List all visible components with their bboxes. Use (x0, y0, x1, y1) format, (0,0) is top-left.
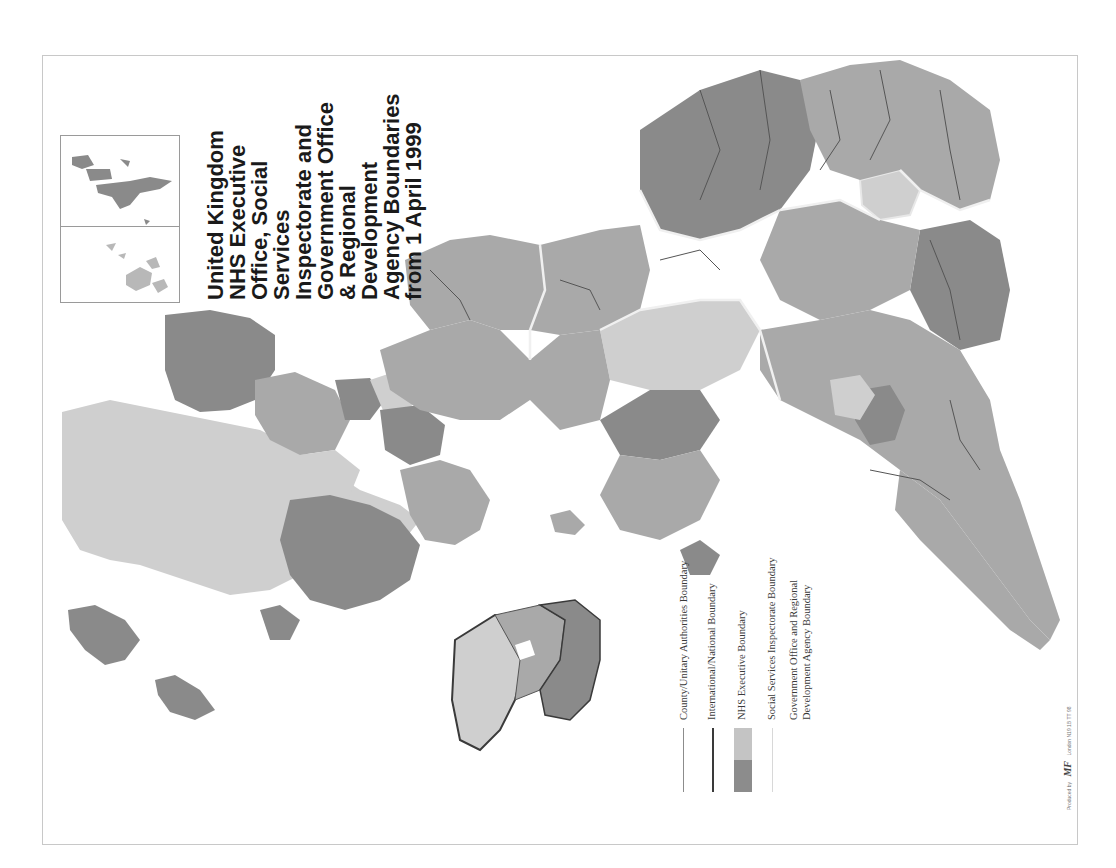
credit-suffix: London N19 1B TT 98 (1066, 707, 1072, 756)
credit-prefix: Produced by (1066, 782, 1072, 810)
legend-label: International/National Boundary (706, 583, 718, 720)
borders-region (380, 405, 445, 465)
map-title: United Kingdom NHS Executive Office, Soc… (205, 100, 425, 300)
title-line: Inspectorate and (293, 100, 315, 300)
county-boundary-swatch (683, 728, 684, 792)
isle-of-man (550, 510, 585, 535)
international-boundary-swatch (712, 728, 714, 792)
northern-ireland (452, 600, 600, 750)
map-legend: County/Unitary Authorities Boundary Inte… (660, 540, 830, 780)
producer-logo: MF (1062, 761, 1073, 777)
dumfries-region (400, 460, 490, 545)
north-east (405, 235, 545, 330)
title-line: United Kingdom (205, 100, 227, 300)
wales-north (600, 390, 720, 460)
title-line: & Regional (337, 100, 359, 300)
title-line: Office, Social (249, 100, 271, 300)
title-line: Services (271, 100, 293, 300)
legend-label: NHS Executive Boundary (736, 610, 748, 720)
title-line: Agency Boundaries (381, 100, 403, 300)
legend-label: Development Agency Boundary (801, 585, 813, 720)
legend-label: Social Services Inspectorate Boundary (766, 558, 778, 720)
title-line: NHS Executive (227, 100, 249, 300)
orkney-inset (106, 243, 168, 293)
islay-area (260, 605, 300, 640)
title-line: Development (359, 100, 381, 300)
title-line: from 1 April 1999 (403, 100, 425, 300)
skye-area (155, 675, 215, 720)
western-isles (68, 605, 140, 665)
ssi-boundary-swatch (772, 728, 773, 792)
legend-label: Government Office and Regional (788, 580, 800, 720)
title-line: Government Office (315, 100, 337, 300)
legend-label: County/Unitary Authorities Boundary (678, 561, 690, 720)
nhs-boundary-swatch (734, 728, 752, 792)
wales-south (600, 450, 720, 540)
west-midlands (530, 330, 610, 430)
producer-credit: Produced by MF London N19 1B TT 98 (1062, 707, 1073, 810)
islands-inset-map (60, 135, 180, 303)
uk-boundaries-map (0, 0, 1116, 868)
shetland-inset (72, 155, 172, 225)
